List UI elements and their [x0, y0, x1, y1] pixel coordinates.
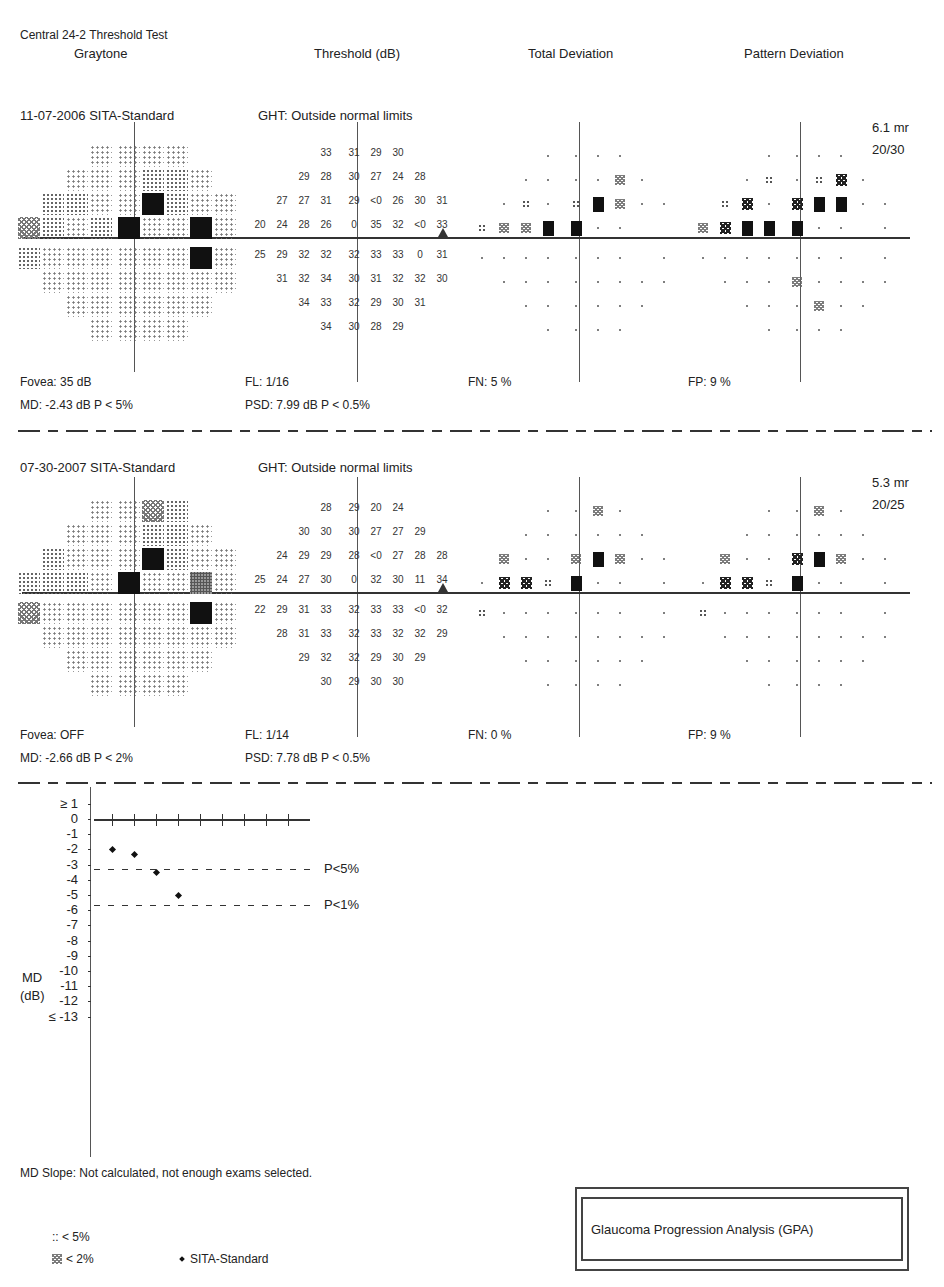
section-divider — [18, 430, 932, 432]
graytone-cell — [166, 674, 188, 696]
pattern-deviation-cell — [790, 606, 804, 620]
pattern-deviation-cell — [856, 654, 870, 668]
total-deviation-cell — [591, 606, 605, 620]
total-deviation-cell — [613, 678, 627, 692]
pattern-deviation-cell — [812, 552, 826, 566]
threshold-value: 27 — [367, 526, 385, 537]
total-deviation-cell — [541, 251, 555, 265]
normal-dot-icon — [547, 510, 549, 512]
md-y-tick-mark — [88, 910, 91, 911]
graytone-cell — [190, 271, 212, 293]
threshold-value: 32 — [345, 297, 363, 308]
graytone-cell — [190, 572, 212, 594]
total-deviation-cell — [475, 251, 489, 265]
p1-pattern-icon — [720, 577, 731, 589]
graytone-cell — [166, 602, 188, 624]
normal-dot-icon — [796, 179, 798, 181]
p05-block-icon — [792, 576, 803, 591]
graytone-cell — [42, 247, 64, 269]
pattern-deviation-cell — [718, 275, 732, 289]
threshold-value: 31 — [433, 195, 451, 206]
total-deviation-cell — [569, 299, 583, 313]
legend-p2: < 2% — [50, 1252, 94, 1266]
column-header-threshold: Threshold (dB) — [314, 46, 400, 61]
pattern-deviation-cell — [812, 275, 826, 289]
total-deviation-cell — [475, 221, 489, 235]
p1-pattern-icon — [499, 577, 510, 589]
pattern-deviation-cell — [762, 606, 776, 620]
pattern-deviation-cell — [834, 552, 848, 566]
pattern-deviation-cell — [812, 576, 826, 590]
md-y-tick-label: -11 — [38, 978, 78, 993]
total-deviation-cell — [519, 654, 533, 668]
total-deviation-cell — [635, 552, 649, 566]
pattern-deviation-cell — [834, 678, 848, 692]
pattern-deviation-cell — [812, 528, 826, 542]
threshold-value: 28 — [295, 219, 313, 230]
total-deviation-cell — [541, 504, 555, 518]
graytone-cell — [18, 247, 40, 269]
pattern-deviation-cell — [812, 173, 826, 187]
threshold-value: 0 — [345, 219, 363, 230]
normal-dot-icon — [597, 257, 599, 259]
pattern-deviation-cell — [834, 275, 848, 289]
graytone-cell — [142, 548, 164, 570]
ght-result: GHT: Outside normal limits — [258, 108, 413, 123]
threshold-value: 24 — [273, 574, 291, 585]
p05-block-icon — [593, 197, 604, 212]
md-y-tick-mark — [88, 1017, 91, 1018]
graytone-cell — [66, 247, 88, 269]
graytone-cell — [190, 193, 212, 215]
normal-dot-icon — [884, 227, 886, 229]
normal-dot-icon — [768, 203, 770, 205]
threshold-value: 33 — [367, 604, 385, 615]
total-deviation-cell — [497, 221, 511, 235]
p1-pattern-icon — [742, 198, 753, 210]
total-deviation-cell — [635, 299, 649, 313]
normal-dot-icon — [746, 612, 748, 614]
p05-block-icon — [814, 552, 825, 567]
normal-dot-icon — [818, 329, 820, 331]
graytone-cell — [118, 572, 140, 594]
threshold-value: 27 — [273, 195, 291, 206]
normal-dot-icon — [768, 612, 770, 614]
total-deviation-cell — [519, 275, 533, 289]
false-negatives: FN: 0 % — [468, 728, 511, 742]
normal-dot-icon — [597, 612, 599, 614]
graytone-cell — [166, 626, 188, 648]
normal-dot-icon — [796, 155, 798, 157]
threshold-value: 25 — [251, 574, 269, 585]
pattern-deviation-cell — [762, 678, 776, 692]
threshold-value: 29 — [317, 550, 335, 561]
threshold-value: 33 — [317, 297, 335, 308]
graytone-cell — [142, 500, 164, 522]
threshold-value: 32 — [345, 628, 363, 639]
normal-dot-icon — [547, 534, 549, 536]
graytone-cell — [90, 169, 112, 191]
normal-dot-icon — [746, 281, 748, 283]
pattern-std-deviation: PSD: 7.78 dB P < 0.5% — [245, 751, 370, 765]
pattern-deviation-cell — [878, 221, 892, 235]
pupil-diameter: 6.1 mr — [872, 120, 909, 135]
total-deviation-cell — [519, 221, 533, 235]
threshold-value: 29 — [295, 652, 313, 663]
pattern-deviation-cell — [856, 552, 870, 566]
pattern-deviation-cell — [762, 528, 776, 542]
pattern-std-deviation: PSD: 7.99 dB P < 0.5% — [245, 398, 370, 412]
normal-dot-icon — [597, 155, 599, 157]
p2-pattern-icon — [615, 554, 625, 564]
total-deviation-cell — [613, 173, 627, 187]
normal-dot-icon — [597, 534, 599, 536]
p5-label: P<5% — [324, 861, 359, 876]
pattern-deviation-cell — [740, 251, 754, 265]
graytone-cell — [142, 650, 164, 672]
fovea-value: Fovea: 35 dB — [20, 375, 91, 389]
graytone-cell — [118, 548, 140, 570]
p5-pattern-icon — [478, 224, 486, 232]
graytone-cell — [142, 572, 164, 594]
pattern-deviation-cell — [740, 654, 754, 668]
threshold-value: 33 — [317, 147, 335, 158]
total-deviation-cell — [541, 654, 555, 668]
threshold-value: 29 — [345, 195, 363, 206]
normal-dot-icon — [525, 636, 527, 638]
